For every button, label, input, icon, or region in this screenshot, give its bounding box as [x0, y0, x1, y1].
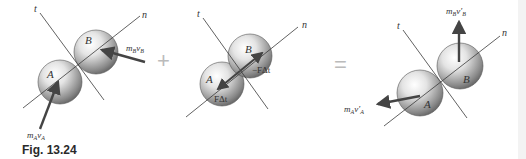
- figure-caption: Fig. 13.24: [22, 143, 77, 157]
- n-axis-line: [23, 16, 140, 108]
- momentum-b-prime-label: mBv′B: [446, 6, 466, 17]
- panel-after-impact: t n A B mAv′A mBv′B: [344, 6, 507, 126]
- collision-figure: t n A B mAvA mBvB + t n A B FΔt −FΔt: [0, 0, 526, 159]
- t-axis-label: t: [34, 3, 37, 14]
- momentum-a-label: mAvA: [27, 130, 45, 141]
- t-axis-label: t: [397, 20, 400, 31]
- n-axis-label: n: [142, 9, 147, 20]
- t-axis-label: t: [197, 8, 200, 19]
- n-axis-label: n: [502, 27, 507, 38]
- panel-impulse: t n A B FΔt −FΔt: [186, 8, 307, 117]
- momentum-b-label: mBvB: [126, 43, 144, 54]
- diagram-canvas: t n A B mAvA mBvB + t n A B FΔt −FΔt: [0, 0, 526, 159]
- sphere-a: [397, 70, 443, 116]
- sphere-b-label: B: [463, 73, 470, 85]
- equals-operator: =: [334, 52, 347, 77]
- impulse-a-label: FΔt: [214, 94, 228, 104]
- plus-operator: +: [157, 48, 170, 73]
- n-axis-label: n: [302, 19, 307, 30]
- sphere-b-label: B: [85, 34, 92, 46]
- momentum-a-prime-label: mAv′A: [344, 104, 364, 115]
- sphere-a-label: A: [423, 98, 431, 110]
- panel-before-impact: t n A B mAvA mBvB: [23, 3, 147, 141]
- sphere-a-label: A: [205, 73, 213, 85]
- impulse-b-label: −FΔt: [252, 65, 271, 75]
- sphere-a-label: A: [46, 68, 54, 80]
- sphere-b-label: B: [245, 43, 252, 55]
